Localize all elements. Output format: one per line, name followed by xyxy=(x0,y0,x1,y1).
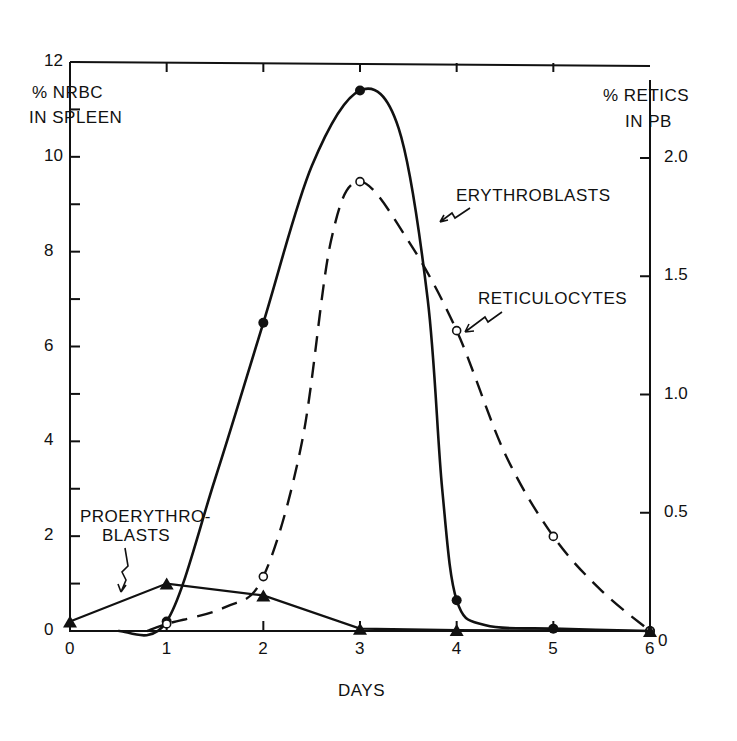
reticulocytes-annotation: RETICULOCYTES xyxy=(478,289,627,309)
erythroblasts-marker xyxy=(548,624,558,634)
x-tick-label: 5 xyxy=(548,639,557,659)
left-tick-label: 2 xyxy=(44,525,53,545)
left-axis-label-line2: IN SPLEEN xyxy=(29,108,122,128)
right-tick-label: 0 xyxy=(658,631,667,651)
x-tick-label: 0 xyxy=(65,639,74,659)
erythroblasts-line xyxy=(118,89,650,636)
erythroblasts-arrow xyxy=(440,208,470,222)
x-axis-label: DAYS xyxy=(338,681,385,701)
right-axis-label-line2: IN PB xyxy=(625,112,672,132)
x-tick-label: 6 xyxy=(645,639,654,659)
proerythroblasts-marker xyxy=(63,616,77,628)
right-tick-label: 1.5 xyxy=(664,265,688,285)
right-tick-label: 2.0 xyxy=(664,147,688,167)
x-tick-label: 1 xyxy=(162,639,171,659)
left-tick-label: 10 xyxy=(44,146,63,166)
right-tick-label: 0.5 xyxy=(664,502,688,522)
reticulocytes-marker xyxy=(549,532,557,540)
proerythroblasts-arrow xyxy=(118,548,128,592)
erythroblasts-marker xyxy=(258,318,268,328)
reticulocytes-marker xyxy=(356,178,364,186)
right-tick-label: 1.0 xyxy=(664,384,688,404)
erythroblasts-annotation: ERYTHROBLASTS xyxy=(456,186,611,206)
right-axis-label-line1: % RETICS xyxy=(603,86,689,106)
erythroblasts-marker xyxy=(355,85,365,95)
reticulocytes-marker xyxy=(259,573,267,581)
reticulocytes-marker xyxy=(163,620,171,628)
left-tick-label: 0 xyxy=(44,620,53,640)
series-layer xyxy=(63,85,657,637)
x-tick-label: 2 xyxy=(258,639,267,659)
x-tick-label: 4 xyxy=(452,639,461,659)
x-tick-label: 3 xyxy=(355,639,364,659)
reticulocytes-line xyxy=(147,182,650,631)
proerythroblasts-annotation-line1: PROERYTHRO- xyxy=(80,507,211,527)
reticulocytes-arrow xyxy=(465,312,502,332)
left-tick-label: 4 xyxy=(44,430,53,450)
left-axis-label-line1: % NRBC xyxy=(32,83,103,103)
left-tick-label: 8 xyxy=(44,241,53,261)
erythroblasts-marker xyxy=(452,595,462,605)
left-tick-label: 6 xyxy=(44,336,53,356)
left-tick-label: 12 xyxy=(44,51,63,71)
reticulocytes-marker xyxy=(453,327,461,335)
proerythroblasts-annotation-line2: BLASTS xyxy=(102,526,170,546)
